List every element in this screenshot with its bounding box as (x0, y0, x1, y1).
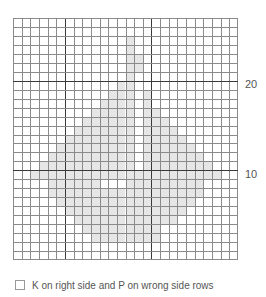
shaded-cell (91, 215, 100, 224)
shaded-cell (108, 233, 117, 242)
shaded-cell (100, 215, 109, 224)
shaded-cell (100, 197, 109, 206)
shaded-cell (82, 117, 91, 126)
shaded-cell (134, 197, 143, 206)
shaded-cell (143, 197, 152, 206)
shaded-cell (82, 135, 91, 144)
shaded-cell (82, 215, 91, 224)
shaded-cell (108, 117, 117, 126)
shaded-cell (117, 117, 126, 126)
shaded-cell (134, 63, 143, 72)
shaded-cell (169, 197, 178, 206)
grid-line (13, 18, 238, 19)
shaded-cell (126, 36, 135, 45)
shaded-cell (126, 161, 135, 170)
shaded-cell (143, 215, 152, 224)
shaded-cell (74, 215, 83, 224)
grid-line (13, 233, 238, 234)
shaded-cell (195, 188, 204, 197)
shaded-cell (126, 99, 135, 108)
shaded-cell (134, 170, 143, 179)
shaded-cell (143, 90, 152, 99)
shaded-cell (203, 161, 212, 170)
shaded-cell (82, 224, 91, 233)
shaded-cell (82, 206, 91, 215)
shaded-cell (169, 161, 178, 170)
shaded-cell (91, 135, 100, 144)
shaded-cell (151, 206, 160, 215)
shaded-cell (117, 206, 126, 215)
shaded-cell (169, 126, 178, 135)
shaded-cell (160, 215, 169, 224)
shaded-cell (74, 152, 83, 161)
shaded-cell (91, 170, 100, 179)
legend: K on right side and P on wrong side rows (15, 278, 214, 292)
shaded-cell (151, 188, 160, 197)
shaded-cell (126, 152, 135, 161)
shaded-cell (126, 117, 135, 126)
shaded-cell (108, 143, 117, 152)
grid-line (13, 36, 238, 37)
shaded-cell (108, 197, 117, 206)
grid-line (13, 143, 238, 144)
shaded-cell (74, 197, 83, 206)
shaded-cell (48, 179, 57, 188)
shaded-cell (160, 206, 169, 215)
shaded-cell (108, 170, 117, 179)
shaded-cell (65, 179, 74, 188)
shaded-cell (56, 161, 65, 170)
grid-line (13, 215, 238, 216)
grid-line (13, 197, 238, 198)
shaded-cell (100, 143, 109, 152)
grid-line (13, 99, 238, 100)
shaded-cell (48, 170, 57, 179)
shaded-cell (143, 108, 152, 117)
shaded-cell (126, 224, 135, 233)
grid-line (13, 242, 238, 243)
shaded-cell (134, 233, 143, 242)
grid-line (13, 45, 238, 46)
shaded-cell (117, 135, 126, 144)
shaded-cell (151, 126, 160, 135)
shaded-cell (143, 143, 152, 152)
row-label-20: 20 (245, 78, 257, 90)
shaded-cell (117, 215, 126, 224)
shaded-cell (134, 188, 143, 197)
shaded-cell (126, 215, 135, 224)
shaded-cell (186, 197, 195, 206)
shaded-cell (82, 126, 91, 135)
shaded-cell (126, 170, 135, 179)
grid-line (13, 27, 238, 28)
empty-square-icon (15, 280, 25, 290)
shaded-cell (126, 179, 135, 188)
shaded-cell (108, 206, 117, 215)
shaded-cell (100, 152, 109, 161)
grid-line (13, 152, 238, 153)
shaded-cell (126, 108, 135, 117)
shaded-cell (169, 188, 178, 197)
shaded-cell (151, 135, 160, 144)
shaded-cell (151, 161, 160, 170)
knitting-chart-grid (13, 18, 238, 260)
shaded-cell (108, 135, 117, 144)
grid-line (13, 251, 238, 252)
shaded-cell (65, 152, 74, 161)
grid-line (13, 90, 238, 91)
shaded-cell (74, 135, 83, 144)
shaded-cell (100, 224, 109, 233)
shaded-cell (177, 161, 186, 170)
shaded-cell (65, 206, 74, 215)
grid-line (13, 259, 238, 260)
shaded-cell (108, 108, 117, 117)
shaded-cell (117, 188, 126, 197)
shaded-cell (65, 170, 74, 179)
shaded-cell (212, 170, 221, 179)
shaded-cell (169, 143, 178, 152)
shaded-cell (160, 188, 169, 197)
shaded-cell (177, 170, 186, 179)
shaded-cell (126, 143, 135, 152)
shaded-cell (151, 233, 160, 242)
shaded-cell (143, 170, 152, 179)
shaded-cell (160, 179, 169, 188)
shaded-cell (126, 188, 135, 197)
